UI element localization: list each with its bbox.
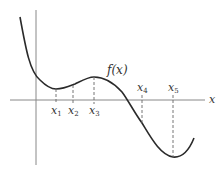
label-x3: x3 [89, 104, 100, 118]
label-x1: x1 [51, 104, 62, 118]
label-x2: x2 [68, 104, 79, 118]
function-diagram: f(x) x x1 x2 x3 x4 x5 [0, 0, 223, 169]
label-x4: x4 [137, 81, 148, 95]
function-label: f(x) [106, 63, 128, 77]
x-axis-label: x [209, 93, 216, 106]
label-x5: x5 [168, 81, 179, 95]
